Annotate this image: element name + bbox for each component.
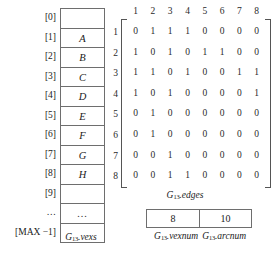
matrix-cell: 0 <box>231 83 248 104</box>
matrix-row-label: 4 <box>110 84 121 105</box>
matrix-cell: 0 <box>179 103 196 124</box>
vexs-index-label: [7] <box>4 145 60 165</box>
matrix-cell: 0 <box>213 62 230 83</box>
matrix-cell: 0 <box>196 62 213 83</box>
matrix-cell: 0 <box>231 103 248 124</box>
vexs-cell: E <box>61 107 104 127</box>
arcnum-value: 10 <box>199 210 251 227</box>
matrix-column-header: 6 <box>213 6 230 19</box>
matrix-cell: 0 <box>196 83 213 104</box>
vexs-cell: G <box>61 146 104 166</box>
matrix-row-label: 7 <box>110 146 121 167</box>
matrix-row-label: 6 <box>110 125 121 146</box>
matrix-cell: 1 <box>144 103 161 124</box>
matrix-cell: 0 <box>127 21 144 42</box>
table-row: 0 1 0 0 0 0 0 0 <box>127 124 265 145</box>
matrix-cell: 1 <box>248 83 265 104</box>
edges-caption-suffix: .edges <box>179 190 203 200</box>
matrix-cell: 0 <box>231 165 248 186</box>
matrix-cell: 1 <box>162 165 179 186</box>
matrix-cell: 1 <box>144 62 161 83</box>
vexs-index-label: [2] <box>4 47 60 67</box>
matrix-grid: 0 1 1 1 0 0 0 0 1 0 1 0 1 <box>127 19 265 188</box>
table-row: 0 1 0 0 0 0 0 0 <box>127 103 265 124</box>
matrix-cell: 0 <box>179 124 196 145</box>
matrix-column-header: 8 <box>248 6 265 19</box>
edges-matrix: 1 2 3 4 5 6 7 8 1 2 3 4 5 6 7 8 <box>110 6 271 188</box>
matrix-cell: 1 <box>127 83 144 104</box>
matrix-cell: 1 <box>144 21 161 42</box>
vexnum-value: 8 <box>147 210 199 227</box>
matrix-cell: 1 <box>248 62 265 83</box>
matrix-cell: 0 <box>248 42 265 63</box>
vexs-cell: F <box>61 126 104 146</box>
matrix-cell: 0 <box>248 124 265 145</box>
table-row: 0 0 1 0 0 0 0 0 <box>127 145 265 166</box>
table-row: 0 0 1 1 0 0 0 0 <box>127 165 265 186</box>
vexs-cell: D <box>61 87 104 107</box>
matrix-cell: 0 <box>162 62 179 83</box>
matrix-cell: 0 <box>196 103 213 124</box>
matrix-cell: 0 <box>196 165 213 186</box>
matrix-cell: 0 <box>127 124 144 145</box>
matrix-cell: 0 <box>248 145 265 166</box>
matrix-cell: 1 <box>179 165 196 186</box>
vexs-caption-suffix: .vexs <box>78 232 97 242</box>
matrix-column-header: 4 <box>179 6 196 19</box>
vexs-index-label: [3] <box>4 67 60 87</box>
matrix-cell: 0 <box>213 145 230 166</box>
matrix-cell: 1 <box>127 62 144 83</box>
table-row: 1 1 0 1 0 0 1 1 <box>127 62 265 83</box>
matrix-cell: 0 <box>231 21 248 42</box>
matrix-cell: 1 <box>162 145 179 166</box>
vexs-cell <box>61 185 104 205</box>
matrix-row-label: 8 <box>110 166 121 187</box>
matrix-cell: 0 <box>196 21 213 42</box>
matrix-cell: 1 <box>213 42 230 63</box>
matrix-cell: 0 <box>162 124 179 145</box>
matrix-cell: 1 <box>162 42 179 63</box>
matrix-row-label: 1 <box>110 22 121 43</box>
vexs-index-label: [1] <box>4 28 60 48</box>
arcnum-caption-suffix: .arcnum <box>215 231 246 241</box>
matrix-cell: 0 <box>127 165 144 186</box>
matrix-cell: 0 <box>144 83 161 104</box>
matrix-cell: 1 <box>162 21 179 42</box>
matrix-cell: 0 <box>127 145 144 166</box>
vexs-array-caption: G13.vexs <box>48 232 114 242</box>
matrix-right-bracket <box>265 19 271 188</box>
matrix-cell: 0 <box>248 21 265 42</box>
edges-matrix-caption: G13.edges <box>150 190 220 200</box>
counters-caption: G13.vexnumG13.arcnum <box>130 231 270 241</box>
matrix-cell: 0 <box>231 42 248 63</box>
matrix-column-header: 5 <box>196 6 213 19</box>
matrix-cell: 0 <box>248 165 265 186</box>
matrix-cell: 0 <box>196 145 213 166</box>
vexs-index-label: [8] <box>4 164 60 184</box>
matrix-column-header-row: 1 2 3 4 5 6 7 8 <box>127 6 271 19</box>
matrix-column-header: 2 <box>144 6 161 19</box>
vexs-index-label: [9] <box>4 184 60 204</box>
matrix-cell: 1 <box>127 42 144 63</box>
matrix-cell: 1 <box>179 62 196 83</box>
matrix-cell: 0 <box>144 145 161 166</box>
matrix-cell: 0 <box>162 103 179 124</box>
vexs-cell: C <box>61 68 104 88</box>
vexs-index-label: [5] <box>4 106 60 126</box>
matrix-row-label: 3 <box>110 63 121 84</box>
vexs-cell-column: A B C D E F G H … <box>60 8 105 243</box>
vexnum-caption-prefix: G <box>154 231 161 241</box>
matrix-cell: 1 <box>196 42 213 63</box>
matrix-cell: 1 <box>144 124 161 145</box>
matrix-cell: 0 <box>196 124 213 145</box>
matrix-row-label: 2 <box>110 43 121 64</box>
counters-box: 8 10 <box>146 209 252 228</box>
vexs-array: [0] [1] [2] [3] [4] [5] [6] [7] [8] [9] … <box>4 8 105 243</box>
matrix-cell: 0 <box>213 83 230 104</box>
matrix-cell: 0 <box>248 103 265 124</box>
matrix-cell: 0 <box>179 145 196 166</box>
matrix-column-header: 7 <box>231 6 248 19</box>
vexs-index-label: … <box>4 203 60 223</box>
matrix-cell: 0 <box>231 145 248 166</box>
matrix-cell: 0 <box>144 165 161 186</box>
